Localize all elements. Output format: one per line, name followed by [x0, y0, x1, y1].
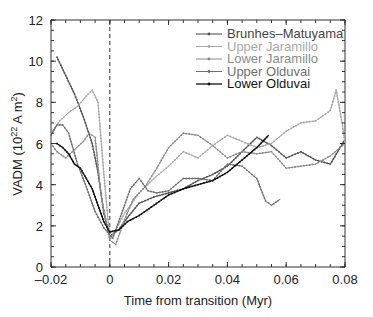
- x-tick-label: 0.04: [215, 272, 240, 287]
- y-tick-label: 0: [36, 260, 43, 275]
- x-tick-label: 0: [106, 272, 113, 287]
- y-axis-title: VADM (1022 A m2): [9, 92, 25, 196]
- y-tick-label: 6: [36, 137, 43, 152]
- x-tick-label: 0.08: [332, 272, 357, 287]
- series-lower-jaramillo: [50, 132, 345, 245]
- x-tick-label: 0.02: [156, 272, 181, 287]
- y-tick-label: 12: [29, 13, 43, 28]
- y-tick-label: 8: [36, 95, 43, 110]
- x-tick-label: 0.06: [274, 272, 299, 287]
- legend-item: Lower Olduvai: [196, 76, 310, 91]
- legend: Brunhes–MatuyamaUpper JaramilloLower Jar…: [196, 26, 344, 91]
- y-tick-label: 4: [36, 178, 43, 193]
- series-upper-jaramillo: [50, 89, 345, 241]
- series-lower-olduvai: [56, 135, 269, 233]
- legend-label: Lower Olduvai: [227, 76, 310, 91]
- x-axis-title: Time from transition (Myr): [124, 293, 272, 308]
- vadm-chart: –0.0200.020.040.060.08024681012 Time fro…: [0, 0, 373, 317]
- series-upper-olduvai: [50, 124, 280, 239]
- y-tick-label: 10: [29, 54, 43, 69]
- y-tick-label: 2: [36, 219, 43, 234]
